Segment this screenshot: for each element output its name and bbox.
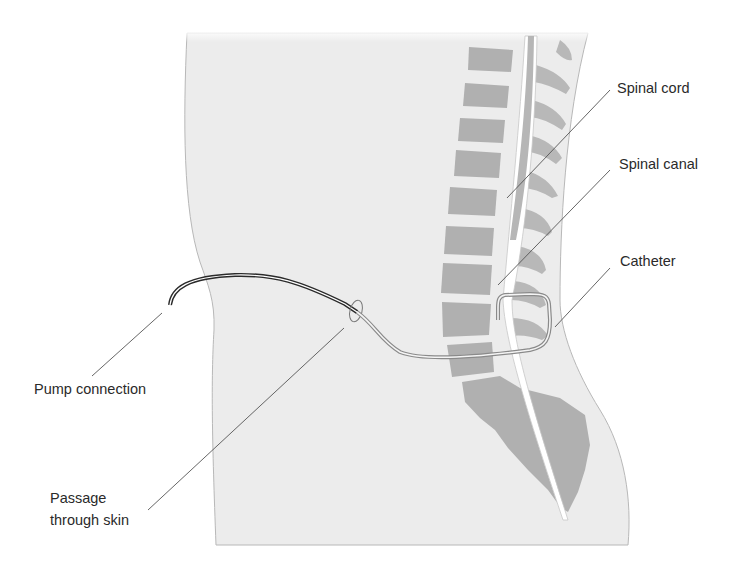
- label-spinal-canal: Spinal canal: [619, 155, 698, 173]
- label-passage-line1: Passage: [50, 489, 106, 507]
- label-pump-connection: Pump connection: [34, 380, 146, 398]
- leader-pump-connection: [92, 313, 162, 376]
- leader-catheter: [555, 268, 610, 327]
- label-catheter: Catheter: [620, 252, 676, 270]
- label-spinal-cord: Spinal cord: [617, 79, 690, 97]
- label-passage-line2: through skin: [50, 511, 129, 529]
